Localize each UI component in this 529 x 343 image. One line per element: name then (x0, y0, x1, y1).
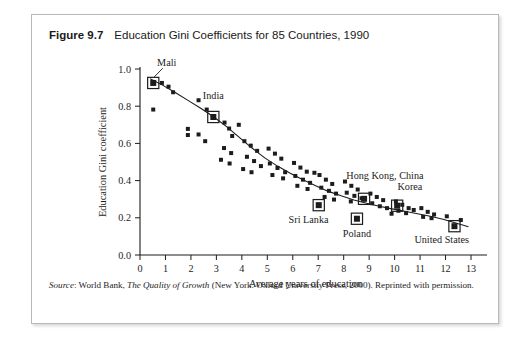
data-point (292, 161, 296, 165)
point-label: Mali (157, 57, 176, 68)
data-point (432, 212, 436, 216)
data-point (250, 170, 254, 174)
data-point (197, 132, 201, 136)
y-tick-label: 0.8 (118, 101, 131, 112)
data-point (186, 127, 190, 131)
point-label: Sri Lanka (289, 214, 329, 225)
data-point (385, 206, 389, 210)
highlight-marker (361, 196, 367, 202)
data-point (252, 159, 256, 163)
data-point (419, 206, 423, 210)
data-point (412, 208, 416, 212)
source-note: Source: World Bank, The Quality of Growt… (49, 279, 479, 292)
source-publisher: World Bank, (79, 280, 128, 290)
highlight-marker (354, 216, 360, 222)
y-tick-label: 0.0 (118, 250, 131, 261)
data-point (421, 215, 425, 219)
data-point (151, 108, 155, 112)
point-label: Korea (397, 181, 422, 192)
data-point (298, 166, 302, 170)
x-tick-label: 2 (188, 263, 193, 274)
data-point (318, 173, 322, 177)
data-point (345, 191, 349, 195)
data-point (279, 157, 283, 161)
y-tick-label: 0.2 (118, 212, 131, 223)
x-tick-label: 10 (390, 263, 400, 274)
data-point (167, 85, 171, 89)
y-tick-label: 0.6 (118, 138, 131, 149)
data-point (375, 195, 379, 199)
data-point (295, 184, 299, 188)
data-point (352, 194, 356, 198)
data-point (330, 182, 334, 186)
data-point (241, 167, 245, 171)
data-point (227, 127, 231, 131)
x-tick-label: 5 (265, 263, 270, 274)
point-label: United States (414, 234, 469, 245)
data-point (334, 192, 338, 196)
data-point (281, 176, 285, 180)
data-point (319, 186, 323, 190)
highlight-marker (451, 223, 457, 229)
data-point (222, 146, 226, 150)
x-tick-label: 4 (239, 263, 244, 274)
x-tick-label: 9 (367, 263, 372, 274)
data-point (308, 181, 312, 185)
point-label: Hong Kong, China (346, 170, 424, 181)
x-tick-label: 0 (137, 263, 142, 274)
x-tick-label: 11 (415, 263, 425, 274)
data-point (237, 123, 241, 127)
data-point (324, 178, 328, 182)
data-point (197, 98, 201, 102)
data-point (407, 206, 411, 210)
data-point (245, 155, 249, 159)
data-point (378, 204, 382, 208)
data-point (301, 178, 305, 182)
data-point (259, 164, 263, 168)
x-tick-label: 12 (440, 263, 450, 274)
y-axis-title: Education Gini coefficient (97, 107, 108, 217)
data-point (219, 158, 223, 162)
data-point (445, 214, 449, 218)
data-point (370, 201, 374, 205)
point-label: Poland (343, 228, 371, 239)
data-point (171, 90, 175, 94)
data-point (230, 134, 234, 138)
data-point (255, 149, 259, 153)
data-point (273, 152, 277, 156)
data-point (223, 121, 227, 125)
y-tick-label: 1.0 (118, 64, 131, 75)
data-point (349, 184, 353, 188)
data-point (203, 139, 207, 143)
data-point (160, 81, 164, 85)
x-tick-label: 7 (316, 263, 321, 274)
data-point (283, 170, 287, 174)
y-tick-label: 0.4 (118, 175, 131, 186)
source-citation: (New York: Oxford University Press, 2000… (209, 280, 473, 290)
x-tick-label: 13 (466, 263, 476, 274)
data-point (349, 199, 353, 203)
data-point (312, 171, 316, 175)
data-point (305, 170, 309, 174)
source-label: Source (49, 280, 74, 290)
source-work-title: The Quality of Growth (127, 280, 209, 290)
highlight-marker (316, 202, 322, 208)
data-point (229, 151, 233, 155)
point-label: India (203, 90, 224, 101)
data-point (404, 211, 408, 215)
data-point (381, 198, 385, 202)
data-point (267, 147, 271, 151)
highlight-marker (210, 114, 216, 120)
data-point (268, 161, 272, 165)
data-point (356, 188, 360, 192)
data-point (275, 166, 279, 170)
x-tick-label: 3 (214, 263, 219, 274)
data-point (242, 139, 246, 143)
x-tick-label: 6 (290, 263, 295, 274)
data-point (332, 198, 336, 202)
data-point (270, 173, 274, 177)
x-tick-label: 1 (163, 263, 168, 274)
data-point (430, 216, 434, 220)
data-point (249, 144, 253, 148)
highlight-marker (150, 80, 156, 86)
